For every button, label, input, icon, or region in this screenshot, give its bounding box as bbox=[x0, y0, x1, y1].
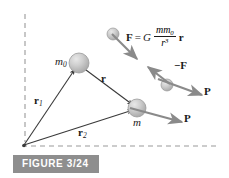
figure-caption: FIGURE 3/24 bbox=[13, 155, 99, 173]
label-momentum-lower: P bbox=[184, 113, 191, 124]
sphere-m0 bbox=[69, 53, 89, 73]
origin-point bbox=[22, 144, 26, 148]
figure-diagram bbox=[0, 0, 229, 178]
equation-constant: G bbox=[143, 31, 151, 43]
vector-r bbox=[82, 67, 133, 105]
label-vector-r2: r2 bbox=[78, 127, 87, 140]
label-mass-m: m bbox=[133, 117, 141, 128]
vector-r1 bbox=[24, 69, 75, 145]
equation-fraction: mm0 r3 bbox=[154, 25, 176, 49]
equation-numerator: mm0 bbox=[154, 25, 176, 36]
equation-lhs: F bbox=[126, 31, 133, 43]
label-vector-r1: r1 bbox=[34, 95, 43, 108]
label-momentum-upper: P bbox=[204, 86, 211, 97]
equation-trailing-vector: r bbox=[179, 31, 184, 43]
label-mass-m0: m0 bbox=[55, 56, 67, 69]
equation-denominator: r3 bbox=[159, 37, 170, 49]
force-equation: F = G mm0 r3 r bbox=[126, 25, 184, 49]
label-neg-force: −F bbox=[174, 60, 187, 71]
equation-equals: = bbox=[135, 31, 141, 43]
figure-container: m0 m r1 r2 r −F P P F = G mm0 r3 r FIGUR… bbox=[0, 0, 229, 178]
label-vector-r: r bbox=[101, 73, 106, 84]
